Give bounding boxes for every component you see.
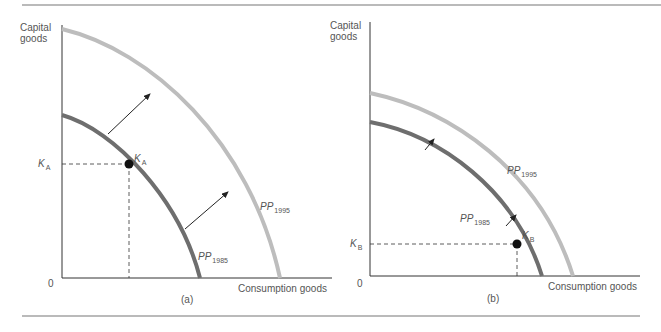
axis-marker-ka: KA bbox=[38, 158, 50, 170]
x-axis-label-a: Consumption goods bbox=[238, 283, 327, 294]
y-label-line1-a: Capital bbox=[20, 22, 51, 33]
panel-b bbox=[370, 22, 640, 276]
axis-marker-kb: KB bbox=[350, 238, 362, 250]
shift-arrow-a2 bbox=[185, 192, 228, 229]
curve-pp1995-b bbox=[370, 93, 573, 276]
y-label-line2-b: goods bbox=[330, 31, 361, 42]
curve-label-pp1985-b: PP1985 bbox=[460, 213, 490, 225]
point-label-ka: KA bbox=[134, 153, 146, 165]
y-label-line1-b: Capital bbox=[330, 20, 361, 31]
curve-pp1985-a bbox=[62, 115, 200, 278]
caption-b: (b) bbox=[487, 293, 499, 304]
y-axis-label-b: Capital goods bbox=[330, 20, 361, 42]
x-axis-label-b: Consumption goods bbox=[548, 281, 637, 292]
y-axis-label-a: Capital goods bbox=[20, 22, 51, 44]
panel-a bbox=[62, 25, 332, 278]
point-kb bbox=[513, 240, 522, 249]
curve-label-pp1985-a: PP1985 bbox=[198, 251, 228, 263]
curve-pp1995-a bbox=[62, 29, 280, 278]
curve-label-pp1995-a: PP1995 bbox=[260, 201, 290, 213]
curve-pp1985-b bbox=[370, 122, 542, 276]
point-ka bbox=[125, 160, 134, 169]
point-label-kb: KB bbox=[522, 230, 534, 242]
shift-arrow-a1 bbox=[108, 94, 150, 134]
origin-label-a: 0 bbox=[48, 278, 54, 289]
y-label-line2-a: goods bbox=[20, 33, 51, 44]
curve-label-pp1995-b: PP1995 bbox=[507, 165, 537, 177]
origin-label-b: 0 bbox=[357, 278, 363, 289]
caption-a: (a) bbox=[181, 294, 193, 305]
